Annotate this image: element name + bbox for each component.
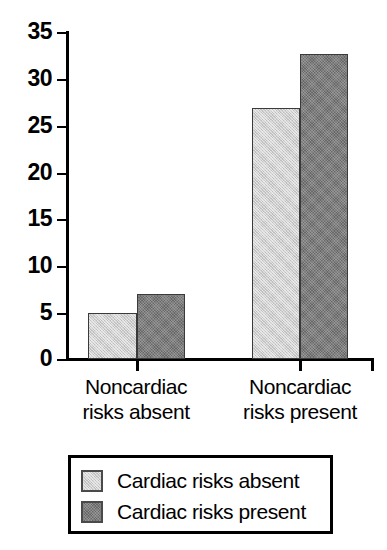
x-axis-label-group-2-line1: Noncardiac — [249, 375, 351, 398]
chart-legend: Cardiac risks absent Cardiac risks prese… — [68, 455, 333, 534]
y-tick-label-35: 35 — [12, 20, 52, 43]
bar-group-1-series-2 — [137, 294, 185, 359]
plot-area: 35 30 25 20 15 10 5 0 Noncardiac risks a… — [0, 0, 387, 375]
y-tick-mark-30 — [57, 79, 68, 81]
legend-swatch-icon-dark — [81, 501, 103, 523]
x-tick-mark-group-1 — [136, 359, 139, 371]
y-tick-mark-10 — [57, 266, 68, 268]
y-tick-label-10: 10 — [12, 254, 52, 277]
y-tick-label-0: 0 — [12, 347, 52, 370]
y-tick-mark-20 — [57, 173, 68, 175]
y-tick-label-5: 5 — [12, 301, 52, 324]
legend-item-cardiac-risks-absent: Cardiac risks absent — [81, 465, 330, 496]
legend-label-cardiac-risks-present: Cardiac risks present — [117, 501, 306, 522]
bar-group-2-series-1 — [252, 108, 300, 359]
x-tick-mark-group-2 — [299, 359, 302, 371]
bar-group-1-series-1 — [88, 313, 137, 359]
x-axis-label-group-1-line1: Noncardiac — [85, 375, 187, 398]
legend-swatch-icon-light — [81, 470, 103, 492]
y-tick-mark-25 — [57, 126, 68, 128]
y-tick-mark-5 — [57, 313, 68, 315]
y-tick-label-25: 25 — [12, 114, 52, 137]
x-tick-mark-end — [371, 359, 374, 371]
y-tick-label-20: 20 — [12, 161, 52, 184]
bar-chart-figure: 35 30 25 20 15 10 5 0 Noncardiac risks a… — [0, 0, 387, 550]
y-tick-mark-35 — [57, 32, 68, 34]
legend-label-cardiac-risks-absent: Cardiac risks absent — [117, 470, 299, 491]
x-axis-label-group-1: Noncardiac risks absent — [56, 374, 216, 424]
x-axis-label-group-2-line2: risks present — [220, 399, 380, 424]
y-tick-label-30: 30 — [12, 67, 52, 90]
legend-item-cardiac-risks-present: Cardiac risks present — [81, 496, 330, 527]
bar-group-2-series-2 — [300, 54, 348, 359]
x-axis-label-group-1-line2: risks absent — [56, 399, 216, 424]
y-tick-mark-15 — [57, 219, 68, 221]
y-tick-mark-0 — [57, 359, 68, 361]
x-axis-label-group-2: Noncardiac risks present — [220, 374, 380, 424]
y-tick-label-15: 15 — [12, 207, 52, 230]
